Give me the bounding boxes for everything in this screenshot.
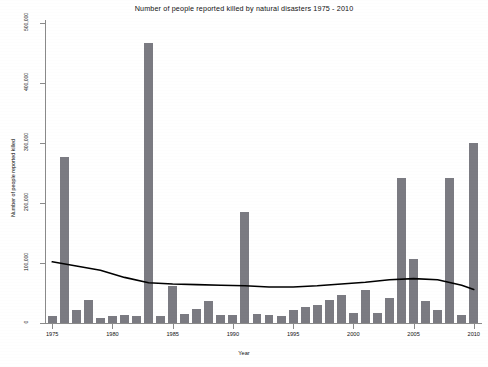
bar <box>108 316 117 323</box>
bar <box>277 316 286 323</box>
bar <box>192 309 201 323</box>
bar <box>156 316 165 323</box>
bar <box>301 307 310 323</box>
bar <box>289 310 298 323</box>
bar <box>337 295 346 323</box>
bar <box>144 43 153 323</box>
bar <box>469 143 478 323</box>
bar <box>397 178 406 323</box>
bar <box>373 313 382 323</box>
bar <box>445 178 454 323</box>
bar <box>216 315 225 323</box>
bar <box>120 315 129 323</box>
bar <box>228 315 237 323</box>
bar <box>132 316 141 323</box>
bar <box>421 301 430 323</box>
chart-container: Number of people reported killed by natu… <box>0 0 488 367</box>
bar <box>180 314 189 323</box>
bar <box>253 314 262 323</box>
bar <box>313 305 322 323</box>
bar <box>72 310 81 323</box>
bar <box>409 259 418 323</box>
bar <box>48 316 57 323</box>
bar <box>84 300 93 323</box>
bar <box>60 157 69 323</box>
bar <box>240 212 249 323</box>
bar <box>325 300 334 323</box>
bar <box>265 315 274 323</box>
bar <box>204 301 213 323</box>
bar <box>457 315 466 323</box>
bar <box>168 286 177 323</box>
bar <box>433 310 442 323</box>
x-axis-title: Year <box>0 350 488 356</box>
bars-layer <box>0 0 488 367</box>
bar <box>385 298 394 323</box>
bar <box>361 290 370 323</box>
bar <box>349 313 358 323</box>
bar <box>96 318 105 323</box>
